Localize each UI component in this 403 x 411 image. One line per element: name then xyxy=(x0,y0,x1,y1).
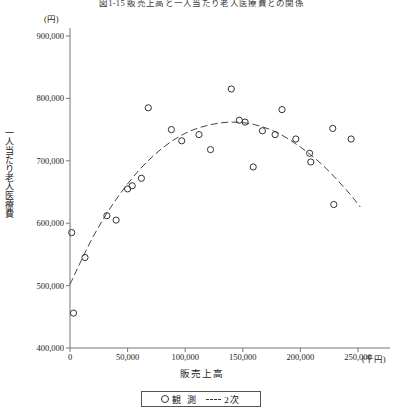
figure-container: 図1-15 販売上高と一人当たり老人医療費との関係 (円) 一人当たり老人医療費… xyxy=(0,0,403,411)
data-point-marker xyxy=(207,147,213,153)
dashed-line-icon xyxy=(206,399,221,400)
plot-area xyxy=(0,0,403,411)
data-point-marker xyxy=(307,150,313,156)
data-point-marker xyxy=(138,175,144,181)
data-point-marker xyxy=(242,119,248,125)
open-circle-icon xyxy=(161,395,169,403)
data-point-marker xyxy=(308,159,314,165)
data-point-marker xyxy=(145,105,151,111)
data-point-marker xyxy=(272,132,278,138)
data-point-marker xyxy=(82,254,88,260)
data-point-marker xyxy=(293,136,299,142)
data-point-marker xyxy=(129,183,135,189)
data-point-marker xyxy=(168,127,174,133)
data-point-marker xyxy=(70,310,76,316)
legend-item-quadratic: 2次 xyxy=(206,393,241,406)
y-axis-ticks xyxy=(66,36,70,348)
legend-label-quadratic: 2次 xyxy=(224,393,241,406)
data-point-marker xyxy=(250,164,256,170)
legend: 観 測 2次 xyxy=(141,391,261,407)
axes xyxy=(70,28,390,348)
legend-item-observed: 観 測 xyxy=(161,393,197,406)
data-point-marker xyxy=(259,128,265,134)
data-point-marker xyxy=(348,136,354,142)
fit-curve-path xyxy=(70,122,360,284)
data-point-marker xyxy=(331,201,337,207)
data-point-marker xyxy=(330,125,336,131)
observed-data-points xyxy=(69,86,355,316)
quadratic-fit-curve xyxy=(70,122,360,284)
data-point-marker xyxy=(179,138,185,144)
data-point-marker xyxy=(196,132,202,138)
x-axis-ticks xyxy=(70,348,358,352)
legend-label-observed: 観 測 xyxy=(172,393,197,406)
data-point-marker xyxy=(236,117,242,123)
data-point-marker xyxy=(113,217,119,223)
data-point-marker xyxy=(228,86,234,92)
data-point-marker xyxy=(279,107,285,113)
